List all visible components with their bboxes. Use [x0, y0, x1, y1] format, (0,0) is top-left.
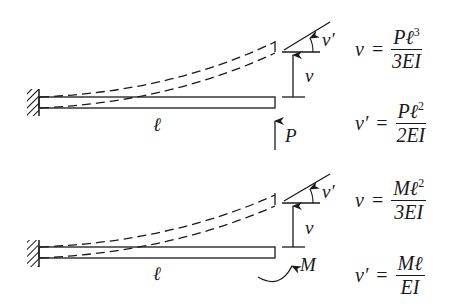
equation-slope-end-moment: v′ = Mℓ EI — [355, 252, 425, 298]
equation-slope-point-load: v′ = Pℓ2 2EI — [355, 100, 426, 146]
deflected-beam-bottom — [40, 206, 275, 258]
panel-end-moment — [27, 174, 330, 282]
fixed-support-icon — [27, 240, 39, 267]
slope-label: v′ — [322, 30, 335, 49]
deflected-beam-top — [40, 42, 275, 97]
slope-angle-arc — [310, 38, 313, 52]
equation-deflection-end-moment: v = Mℓ2 3EI — [355, 177, 426, 223]
slope-label: v′ — [322, 182, 335, 201]
beam-length-label: ℓ — [153, 115, 161, 134]
deflected-beam-bottom — [40, 53, 275, 108]
beam — [39, 247, 275, 258]
load-label-m: M — [300, 255, 316, 274]
fixed-support-icon — [27, 89, 39, 116]
deflected-beam-top — [40, 195, 275, 247]
slope-angle-arc — [310, 189, 313, 203]
moment-arrow-m — [258, 266, 292, 282]
equation-deflection-point-load: v = Pℓ3 3EI — [355, 26, 422, 72]
beam-length-label: ℓ — [153, 264, 161, 283]
beam — [39, 97, 275, 108]
load-label-p: P — [285, 126, 297, 145]
deflection-label: v — [305, 218, 313, 237]
deflection-label: v — [305, 66, 313, 85]
